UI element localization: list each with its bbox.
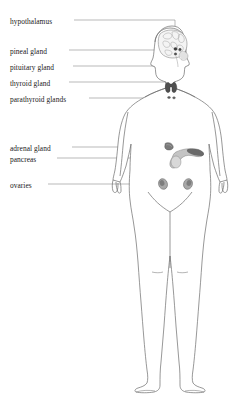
label-hypothalamus: hypothalamus <box>10 17 52 26</box>
adrenal-gland <box>165 143 174 150</box>
label-pancreas: pancreas <box>10 155 36 164</box>
label-parathyroid-glands: parathyroid glands <box>10 95 66 104</box>
label-ovaries: ovaries <box>10 181 32 190</box>
label-pituitary-gland: pituitary gland <box>10 63 54 72</box>
label-adrenal-gland: adrenal gland <box>10 144 51 153</box>
label-pineal-gland: pineal gland <box>10 47 47 56</box>
body-silhouette <box>113 26 227 393</box>
hypothalamus-gland <box>174 48 177 51</box>
pineal-gland <box>179 48 182 50</box>
label-thyroid-gland: thyroid gland <box>10 79 50 88</box>
body-outline <box>112 26 228 393</box>
pituitary-gland <box>174 53 177 55</box>
endocrine-system-diagram: hypothalamus pineal gland pituitary glan… <box>0 0 237 401</box>
diagram-canvas <box>0 0 237 401</box>
